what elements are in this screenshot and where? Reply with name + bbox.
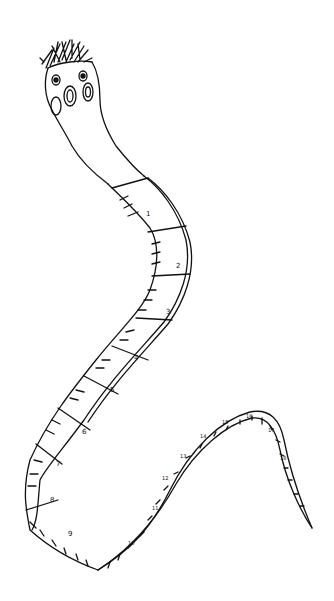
tail-number: 10	[128, 540, 134, 546]
tail-number: 15	[222, 419, 228, 425]
segment-number: 7	[56, 460, 60, 468]
segment-number: 3	[166, 308, 170, 316]
tail-number: 16	[246, 413, 252, 419]
segment-numbers: 1 2 3 4 5 6 7 8 9	[50, 210, 180, 538]
segment-number: 8	[50, 496, 54, 504]
segment-number: 2	[176, 262, 180, 270]
tail-number: 11	[152, 505, 158, 511]
segment-number: 1	[146, 210, 150, 218]
tail-numbers: 10 11 12 13 14 15 16 17 18	[128, 413, 286, 546]
tail-number: 17	[268, 427, 274, 433]
illustration: 1 2 3 4 5 6 7 8 9 10 11 12 13 14 15 16 1…	[0, 0, 334, 601]
tail-number: 14	[200, 433, 206, 439]
body-tape	[25, 176, 312, 570]
tail-number: 12	[162, 475, 168, 481]
segment-number: 9	[68, 530, 72, 538]
segment-number: 5	[110, 386, 114, 394]
tail-number: 13	[180, 453, 186, 459]
head	[45, 61, 144, 184]
hair-tuft	[40, 40, 92, 68]
segment-number: 6	[82, 428, 87, 436]
tail-number: 18	[280, 455, 286, 461]
segment-number: 4	[134, 354, 139, 362]
tapeworm-drawing: 1 2 3 4 5 6 7 8 9 10 11 12 13 14 15 16 1…	[0, 0, 334, 601]
